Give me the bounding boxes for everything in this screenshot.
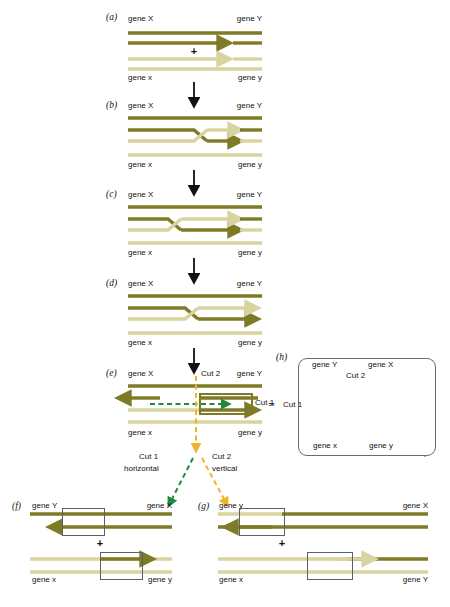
- panel-f-highlight-box-bottom: [100, 552, 143, 580]
- panel-d-gene-top-right: gene Y: [237, 279, 262, 288]
- panel-e-gene-bottom-left: gene x: [128, 428, 152, 437]
- panel-g-gene-bottom-left: gene x: [219, 575, 243, 584]
- panel-label-c: (c): [106, 189, 117, 199]
- panel-f-gene-bottom-left: gene x: [32, 575, 56, 584]
- panel-label-b: (b): [106, 100, 117, 110]
- panel-b-gene-top-right: gene Y: [237, 101, 262, 110]
- panel-f-gene-bottom-right: gene y: [148, 575, 172, 584]
- branch-cut2-line1: Cut 2: [212, 452, 231, 461]
- figure-canvas: (a) gene X gene Y gene x gene y + (b) ge…: [0, 0, 450, 607]
- panel-a-gene-top-left: gene X: [128, 14, 153, 23]
- panel-c-gene-top-right: gene Y: [237, 190, 262, 199]
- panel-h-gene-top-right: gene X: [368, 360, 393, 369]
- panel-label-f: (f): [12, 501, 21, 511]
- panel-g-highlight-box-bottom: [307, 552, 353, 580]
- panel-h-gene-bottom-right: gene y: [369, 441, 393, 450]
- panel-f-gene-top-right: gene X: [147, 501, 172, 510]
- panel-e-cut2-label: Cut 2: [201, 369, 220, 378]
- branch-arrow-cut1: [172, 458, 193, 499]
- branch-cut2-line2: vertical: [212, 464, 237, 473]
- panel-f-highlight-box-top: [62, 508, 105, 536]
- panel-a-plus-sign: +: [191, 45, 197, 57]
- panel-c-gene-bottom-right: gene y: [238, 248, 262, 257]
- branch-cut1-line2: horizontal: [124, 464, 159, 473]
- panel-g-plus-sign: +: [279, 537, 285, 549]
- panel-a-gene-top-right: gene Y: [237, 14, 262, 23]
- panel-label-g: (g): [198, 501, 209, 511]
- panel-e-gene-top-right: gene Y: [237, 369, 262, 378]
- panel-b-strands: [128, 118, 262, 155]
- panel-e-gene-bottom-right: gene y: [238, 428, 262, 437]
- panel-c-gene-bottom-left: gene x: [128, 248, 152, 257]
- panel-label-h: (h): [276, 352, 287, 362]
- panel-a-gene-bottom-right: gene y: [238, 73, 262, 82]
- panel-h-cut2-label: Cut 2: [346, 371, 365, 380]
- panel-g-gene-bottom-right: gene Y: [403, 575, 428, 584]
- panel-label-e: (e): [106, 368, 117, 378]
- panel-h-cut1-label: Cut 1: [283, 400, 302, 409]
- panel-g-highlight-box-top: [239, 508, 285, 536]
- panel-c-gene-top-left: gene X: [128, 190, 153, 199]
- panel-f-plus-sign: +: [97, 537, 103, 549]
- panel-label-a: (a): [106, 12, 117, 22]
- panel-label-d: (d): [106, 278, 117, 288]
- panel-d-gene-bottom-left: gene x: [128, 338, 152, 347]
- branch-cut1-line1: Cut 1: [139, 452, 158, 461]
- panel-h-gene-bottom-left: gene x: [313, 441, 337, 450]
- panel-f-gene-top-left: gene Y: [32, 501, 57, 510]
- panel-b-gene-bottom-right: gene y: [238, 160, 262, 169]
- panel-h-gene-top-left: gene Y: [312, 360, 337, 369]
- panel-e-equals-sign: =: [268, 398, 275, 413]
- panel-d-gene-top-left: gene X: [128, 279, 153, 288]
- panel-d-strands: [128, 296, 262, 333]
- panel-b-gene-top-left: gene X: [128, 101, 153, 110]
- panel-d-gene-bottom-right: gene y: [238, 338, 262, 347]
- panel-a-gene-bottom-left: gene x: [128, 73, 152, 82]
- panel-b-gene-bottom-left: gene x: [128, 160, 152, 169]
- panel-e-gene-top-left: gene X: [128, 369, 153, 378]
- panel-g-gene-top-right: gene X: [403, 501, 428, 510]
- panel-c-strands: [128, 207, 262, 243]
